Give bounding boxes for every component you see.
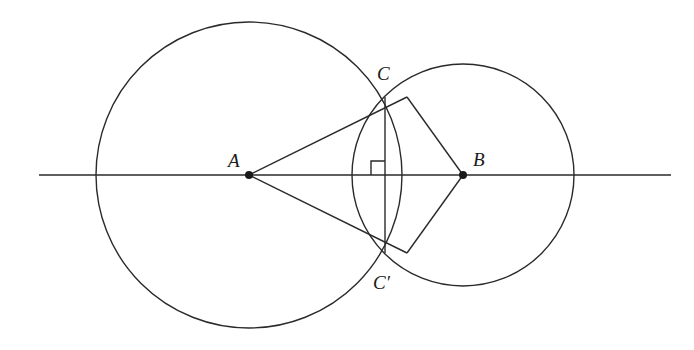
right-angle-marker bbox=[371, 161, 385, 175]
segment-bc-prime bbox=[407, 175, 463, 253]
label-a: A bbox=[226, 150, 240, 171]
segment-ac-prime bbox=[249, 175, 407, 253]
label-c: C bbox=[377, 63, 390, 84]
point-b-dot bbox=[459, 171, 467, 179]
label-c-prime: C′ bbox=[373, 272, 391, 293]
point-a-dot bbox=[245, 171, 253, 179]
geometry-diagram: A B C C′ bbox=[0, 0, 694, 350]
label-b: B bbox=[473, 149, 485, 170]
segment-ac bbox=[249, 97, 407, 175]
segment-bc bbox=[407, 97, 463, 175]
